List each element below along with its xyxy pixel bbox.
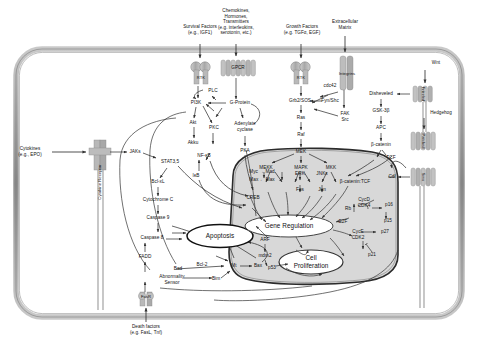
outcome-label-cell-proliferation: CellProliferation <box>285 254 337 270</box>
node-akt: Akt <box>190 120 197 126</box>
node-cycd-cdk4: CycDCDK4 <box>358 197 371 208</box>
node-disheveled: Disheveled <box>369 91 393 97</box>
node-mapk: MAPK <box>294 165 307 171</box>
node-mek: MEK <box>296 149 306 155</box>
node-jnks: JNKs <box>316 171 327 177</box>
receptor-label-fasr: FasR <box>141 294 151 299</box>
node-cytochrome-c: Cytochrome C <box>143 197 174 203</box>
node-arf: ARF <box>260 237 270 243</box>
node-pka: PKA <box>240 148 250 154</box>
node-akku: Akku <box>188 140 199 146</box>
node-mdm2: mdm2 <box>258 253 271 259</box>
node-caspase-9: Caspase 9 <box>147 215 170 221</box>
node-bim: Bim <box>212 276 220 282</box>
node-bad: Bad <box>174 266 183 272</box>
node-beta-catenin: β-catenin <box>371 142 391 148</box>
node-p21: p21 <box>368 252 376 258</box>
ligand-label-cytokines: Cytokines(e.g., EPO) <box>4 146 56 157</box>
ligand-label-extracellular-matrix: ExtracellularMatrix <box>319 19 371 30</box>
signaling-pathway-diagram: Survival Factors(e.g., IGF1) Chemokines,… <box>0 0 478 339</box>
node-abnormality-sensor: AbnormalitySensor <box>149 274 195 285</box>
node-fak-src: FAKSrc <box>322 111 368 122</box>
receptor-label-cytokine-receptor: Cytokine Receptor <box>97 164 102 199</box>
ligand-label-wnt: Wnt <box>432 60 440 66</box>
outcome-label-apoptosis: Apoptosis <box>206 232 235 240</box>
node-mkk: MKK <box>326 165 336 171</box>
receptor-label-integrins: Integrins <box>339 71 355 76</box>
node-max-max: Max ← Max <box>249 177 274 183</box>
node-creb: CREB <box>246 195 259 201</box>
receptor-label-frizzled: Frizzled <box>421 87 426 101</box>
node-nfkb: NF-κB <box>197 153 211 159</box>
node-bcl-2: Bcl-2 <box>197 262 208 268</box>
receptor-label-smo: Smo <box>421 173 426 181</box>
node-cyce-cdk2: CycECDK2 <box>352 229 365 240</box>
node-pi3k: PI3K <box>191 100 201 106</box>
node-ras: Ras <box>297 115 306 121</box>
node-beta-catenin-tcf: β-catenin:TCF <box>340 179 370 185</box>
node-p27: p27 <box>381 229 389 235</box>
node-rb: Rb <box>345 206 351 212</box>
node-plc: PLC <box>208 88 217 94</box>
node-cdc42: cdc42 <box>324 83 337 89</box>
diagram-canvas <box>0 0 478 339</box>
node-caspase-8: Caspase 8 <box>141 235 164 241</box>
node-bcl-xl: Bcl-xL <box>151 179 164 185</box>
node-p53: p53 <box>268 265 276 271</box>
receptor-label-patched: Patched <box>421 133 426 148</box>
node-adenylate-cyclase: Adenylatecyclase <box>234 121 255 132</box>
node-ikb: IκB <box>193 173 200 179</box>
node-tcf-cytoplasm: TCF <box>386 155 395 161</box>
node-raf: Raf <box>297 132 304 138</box>
node-stat3-5: STAT3,5 <box>161 159 179 165</box>
outcome-label-gene-regulation: Gene Regulation <box>265 222 314 230</box>
node-mt: Mt <box>231 263 236 269</box>
node-cdl: Cdl <box>388 174 395 180</box>
receptor-label-rtk-left: RTK <box>197 75 205 80</box>
receptor-label-rtk-right: RTK <box>297 75 305 80</box>
receptor-label-gpcr: GPCR <box>231 65 244 71</box>
node-p15: p15 <box>384 218 392 224</box>
node-erk: ERK <box>295 171 305 177</box>
node-p16: p16 <box>385 202 393 208</box>
node-g-protein: G-Protein <box>230 100 251 106</box>
node-pkc: PKC <box>209 125 219 131</box>
node-myc-mad: Myc → Mad <box>249 169 274 175</box>
node-fos: Fos <box>296 187 304 193</box>
node-e2f: E2F <box>339 219 348 225</box>
ligand-label-chemokines: Chemokines,Hormones,Transmitters(e.g. in… <box>199 8 273 36</box>
node-bax: Bax <box>254 263 262 269</box>
node-fyn-shc: Fyn/Shc <box>321 98 339 104</box>
node-apc: APC <box>376 125 386 131</box>
node-jaks: JAKs <box>129 149 140 155</box>
node-gsk-3b: GSK-3β <box>372 108 389 114</box>
ligand-label-hedgehog: Hedgehog <box>430 110 452 116</box>
node-grb2-sos: Grb2/SOS <box>289 98 311 104</box>
node-jun: Jun <box>318 187 326 193</box>
node-fadd: FADD <box>139 254 152 260</box>
ligand-label-death-factors: Death factors(e.g. FasL, Tnf) <box>116 324 176 335</box>
